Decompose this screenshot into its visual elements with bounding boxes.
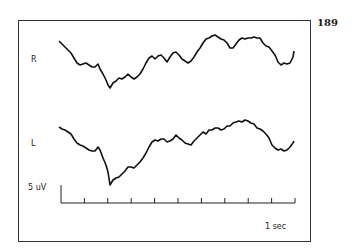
time-axis bbox=[61, 185, 295, 203]
time-scale-label: 1 sec bbox=[265, 222, 286, 231]
eeg-traces bbox=[59, 35, 294, 185]
channel-label-l: L bbox=[31, 139, 35, 148]
eeg-plot bbox=[0, 0, 357, 251]
amplitude-scale-label: 5 uV bbox=[28, 183, 46, 192]
channel-label-r: R bbox=[31, 55, 37, 64]
trace-r bbox=[59, 35, 294, 88]
trace-l bbox=[59, 120, 294, 185]
